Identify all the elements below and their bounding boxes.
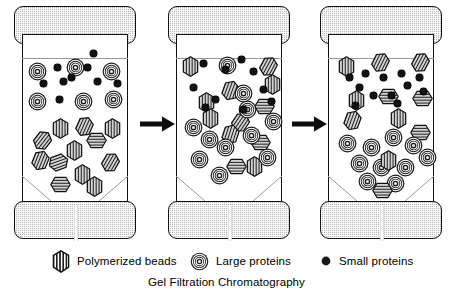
- large-protein: [264, 112, 283, 131]
- legend-item-small-proteins: Small proteins: [320, 248, 413, 274]
- particle-field-3: [328, 34, 434, 216]
- polymerized-bead: [390, 108, 407, 129]
- polymerized-bead: [412, 52, 429, 73]
- small-protein: [346, 74, 353, 81]
- polymerized-bead: [372, 52, 389, 73]
- polymerized-bead: [202, 108, 219, 129]
- large-protein: [28, 62, 47, 81]
- large-protein: [258, 148, 277, 167]
- polymerized-bead: [52, 174, 69, 195]
- small-protein: [356, 84, 363, 91]
- polymerized-bead: [344, 110, 361, 131]
- small-protein: [190, 84, 197, 91]
- large-protein: [102, 62, 121, 81]
- large-protein: [338, 134, 357, 153]
- small-protein: [268, 98, 275, 105]
- legend-label-polymerized-beads: Polymerized beads: [77, 255, 177, 267]
- small-protein: [260, 86, 267, 93]
- polymerized-bead: [88, 130, 105, 151]
- small-protein: [362, 70, 369, 77]
- figure-canvas: Polymerized beads Large proteins Sma: [0, 0, 453, 294]
- large-protein: [28, 92, 47, 111]
- small-protein: [380, 74, 387, 81]
- concentric-circle-icon: [190, 252, 209, 271]
- polymerized-bead: [86, 176, 103, 197]
- large-protein: [200, 130, 219, 149]
- small-protein: [114, 80, 121, 87]
- large-protein: [74, 92, 93, 111]
- small-protein: [90, 50, 97, 57]
- polymerized-bead: [66, 140, 83, 161]
- small-protein: [388, 92, 395, 99]
- legend-label-large-proteins: Large proteins: [216, 255, 291, 267]
- polymerized-bead: [374, 180, 391, 201]
- large-protein: [210, 166, 229, 185]
- legend: Polymerized beads Large proteins Sma: [0, 248, 453, 274]
- polymerized-bead: [380, 150, 397, 171]
- small-protein: [200, 60, 207, 67]
- small-protein: [398, 70, 405, 77]
- polymerized-bead: [228, 156, 245, 177]
- small-protein: [56, 96, 63, 103]
- large-protein: [350, 154, 369, 173]
- small-protein: [416, 74, 423, 81]
- small-protein: [84, 64, 91, 71]
- hexagon-hatched-bead-icon: [52, 250, 70, 273]
- small-protein: [60, 78, 67, 85]
- small-protein: [68, 74, 75, 81]
- small-protein: [404, 82, 411, 89]
- small-protein: [240, 106, 247, 113]
- small-protein: [370, 92, 377, 99]
- small-protein: [54, 64, 61, 71]
- polymerized-bead: [182, 56, 199, 77]
- solid-dot-icon: [320, 255, 332, 267]
- large-protein: [418, 148, 437, 167]
- large-protein: [104, 90, 123, 109]
- small-protein: [222, 66, 229, 73]
- polymerized-bead: [50, 152, 67, 173]
- small-protein: [40, 80, 47, 87]
- small-protein: [212, 96, 219, 103]
- legend-label-small-proteins: Small proteins: [339, 255, 413, 267]
- small-protein: [420, 88, 427, 95]
- polymerized-bead: [102, 152, 119, 173]
- small-protein: [250, 68, 257, 75]
- polymerized-bead: [264, 74, 281, 95]
- particle-field-2: [176, 34, 282, 216]
- column-outlet: [74, 205, 78, 241]
- legend-item-large-proteins: Large proteins: [190, 248, 291, 274]
- large-protein: [190, 150, 209, 169]
- column-stage-3: [312, 0, 452, 245]
- column-outlet: [228, 205, 232, 241]
- small-protein: [352, 102, 359, 109]
- small-protein: [394, 100, 401, 107]
- column-stage-1: [6, 0, 146, 245]
- large-protein: [384, 128, 403, 147]
- large-protein: [242, 126, 261, 145]
- small-protein: [238, 56, 245, 63]
- column-outlet: [380, 205, 384, 241]
- small-protein: [94, 78, 101, 85]
- particle-field-1: [22, 34, 128, 216]
- legend-item-polymerized-beads: Polymerized beads: [52, 248, 177, 274]
- column-stage-2: [160, 0, 300, 245]
- figure-caption: Gel Filtration Chromatography: [0, 276, 453, 288]
- small-protein: [202, 104, 209, 111]
